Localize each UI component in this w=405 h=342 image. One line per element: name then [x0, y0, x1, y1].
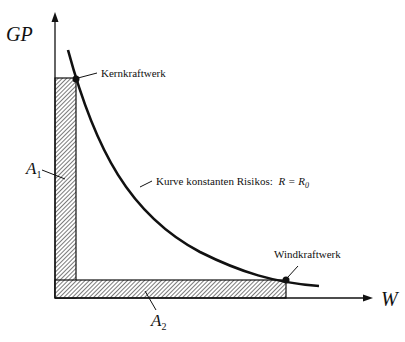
curve-label-text: Kurve konstanten Risikos: — [156, 175, 273, 187]
x-axis-label: W — [381, 289, 398, 309]
y-axis-label: GP — [6, 24, 33, 44]
area-a1-rect — [55, 78, 76, 298]
curve-formula: R = R0 — [278, 175, 308, 187]
risk-diagram — [0, 0, 405, 342]
area-a2-label: A2 — [151, 312, 166, 332]
kernkraftwerk-point — [73, 76, 80, 83]
area-a2-rect — [55, 280, 286, 298]
y-axis-arrow-icon — [52, 12, 59, 22]
windkraftwerk-label: Windkraftwerk — [274, 249, 341, 260]
kernkraftwerk-leader — [78, 73, 97, 78]
windkraftwerk-point — [283, 277, 290, 284]
x-axis-arrow-icon — [363, 295, 373, 302]
curve-label-leader — [140, 181, 152, 187]
windkraftwerk-leader — [288, 266, 298, 277]
area-a1-label: A1 — [26, 160, 41, 180]
curve-label: Kurve konstanten Risikos: R = R0 — [156, 176, 309, 190]
kernkraftwerk-label: Kernkraftwerk — [101, 68, 166, 79]
